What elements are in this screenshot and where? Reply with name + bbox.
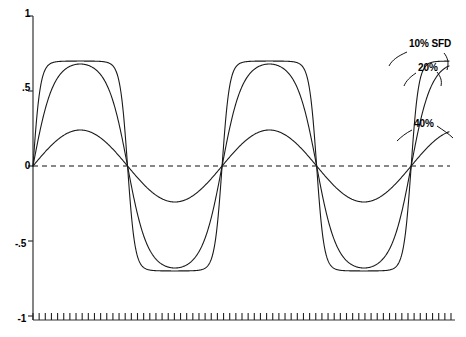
series-annotation-10pct-sfd: 10% SFD (409, 38, 451, 49)
y-tick-label-1: 1 (6, 8, 30, 19)
chart-plot-area (0, 0, 466, 337)
y-tick-label-0point5: .5 (6, 82, 30, 93)
y-tick-label-0: 0 (6, 160, 30, 171)
chart-container: 1 .5 0 -.5 -1 10% SFD 20% 40% (0, 0, 466, 337)
series-annotation-40pct: 40% (414, 118, 434, 129)
series-annotation-20pct: 20% (418, 62, 438, 73)
y-tick-label-neg1: -1 (2, 313, 26, 324)
x-axis-minor-ticks (33, 313, 451, 320)
y-tick-label-neg0point5: -.5 (2, 238, 26, 249)
